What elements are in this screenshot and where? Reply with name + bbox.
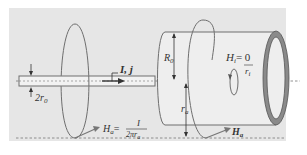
inner-field-label: Hi= 0 [225,51,251,65]
current-label: I, j [119,63,134,75]
coaxial-cable-field-diagram: I, j 2r0 R0 Hi= 0 ri ra Ha= I 2πra Ha [0,0,307,155]
outer-cylinder-body [158,32,277,125]
shell-end-ring-inner [267,37,285,119]
